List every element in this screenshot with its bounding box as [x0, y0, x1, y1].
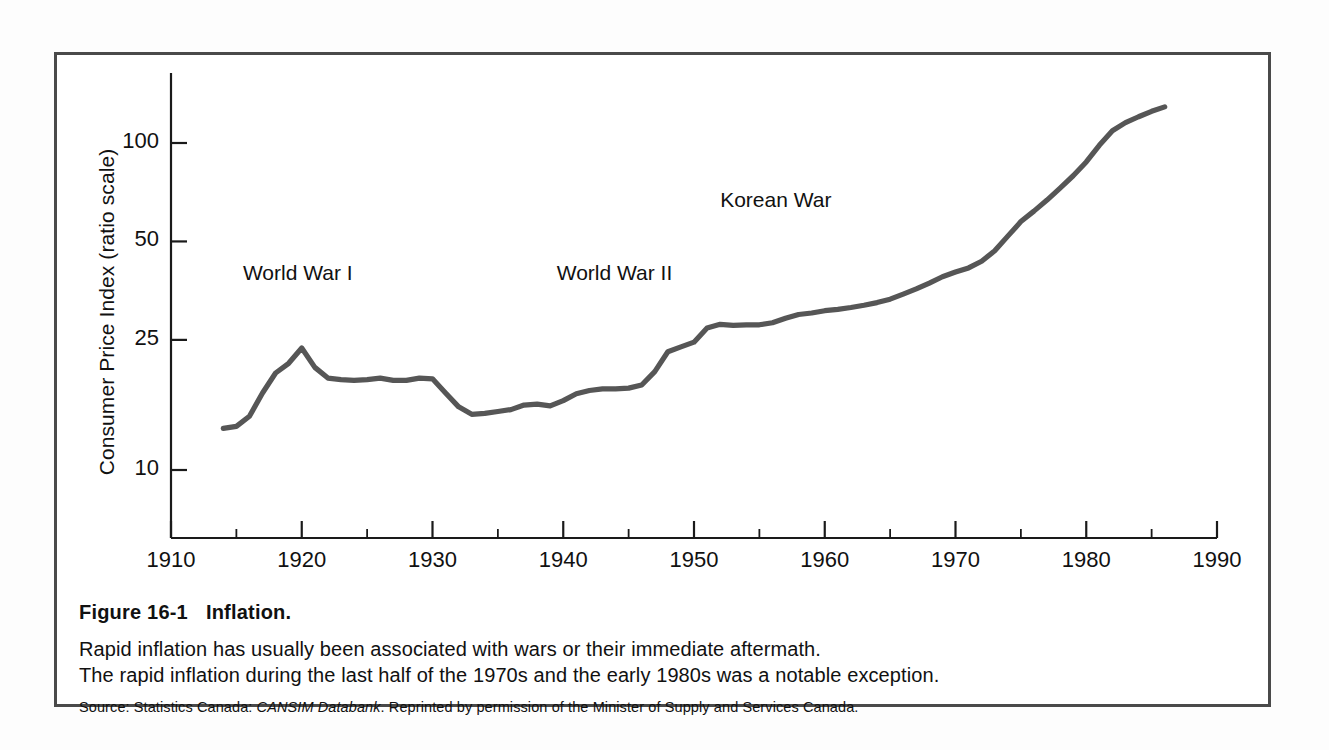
figure-title-text: Inflation. [206, 601, 291, 623]
y-tick-marks [171, 143, 187, 470]
source-suffix: . Reprinted by permission of the Ministe… [381, 699, 859, 715]
figure-source: Source: Statistics Canada: CANSIM Databa… [79, 699, 1252, 715]
x-tick-label-1970: 1970 [906, 547, 1006, 573]
x-tick-marks [171, 521, 1217, 538]
x-tick-label-1940: 1940 [513, 547, 613, 573]
caption-line-2: The rapid inflation during the last half… [79, 662, 1252, 688]
x-tick-label-1910: 1910 [121, 547, 221, 573]
figure-number: Figure 16-1 [79, 601, 188, 623]
figure-title: Figure 16-1Inflation. [79, 601, 1252, 624]
y-tick-label-10: 10 [79, 455, 159, 481]
chart-plot-area: Consumer Price Index (ratio scale) 10050… [57, 55, 1274, 555]
y-tick-label-25: 25 [79, 325, 159, 351]
caption-line-1: Rapid inflation has usually been associa… [79, 636, 1252, 662]
x-tick-label-1950: 1950 [644, 547, 744, 573]
x-tick-label-1930: 1930 [383, 547, 483, 573]
figure-frame: Consumer Price Index (ratio scale) 10050… [54, 52, 1271, 707]
inflation-line-chart [57, 55, 1274, 555]
source-publication: CANSIM Databank [257, 699, 381, 715]
source-prefix: Source: Statistics Canada: [79, 699, 257, 715]
x-tick-label-1980: 1980 [1036, 547, 1136, 573]
chart-axes [171, 73, 1217, 538]
cpi-data-line [223, 107, 1164, 429]
x-tick-label-1920: 1920 [252, 547, 352, 573]
annotation-korean-war: Korean War [720, 188, 831, 212]
x-tick-label-1990: 1990 [1167, 547, 1267, 573]
figure-caption-block: Figure 16-1Inflation. Rapid inflation ha… [57, 601, 1274, 715]
y-tick-label-50: 50 [79, 226, 159, 252]
x-tick-label-1960: 1960 [775, 547, 875, 573]
annotation-world-war-ii: World War II [557, 261, 673, 285]
page-root: Consumer Price Index (ratio scale) 10050… [0, 0, 1329, 750]
annotation-world-war-i: World War I [243, 261, 353, 285]
y-tick-label-100: 100 [79, 128, 159, 154]
